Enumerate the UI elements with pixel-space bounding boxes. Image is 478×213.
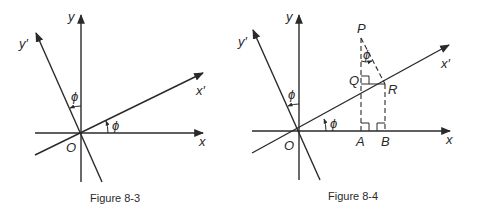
label-y: y [285, 9, 294, 24]
label-origin: O [66, 140, 76, 155]
label-x: x [445, 132, 453, 147]
x-prime-axis [252, 45, 449, 153]
caption-figure-8-4: Figure 8-4 [328, 190, 378, 202]
label-phi-left: ϕ [288, 87, 295, 102]
label-Q: Q [349, 73, 359, 88]
label-y-prime: y′ [18, 36, 29, 51]
phi-arc-bottom [324, 119, 326, 131]
right-angle-Q [361, 76, 369, 84]
right-angle-B [377, 123, 385, 131]
label-x-prime: x′ [195, 83, 206, 98]
figure-8-3: y y′ x′ x O ϕ ϕ Figure 8-3 [18, 9, 206, 204]
figure-8-4: y y′ x′ x O ϕ ϕ ϕ P Q R A B Figure 8-4 [237, 9, 453, 202]
x-prime-axis [35, 73, 203, 155]
label-B: B [381, 134, 390, 149]
label-phi-bottom: ϕ [330, 116, 337, 131]
label-P: P [357, 21, 366, 36]
label-x-prime: x′ [440, 56, 451, 71]
diagram-canvas: y y′ x′ x O ϕ ϕ Figure 8-3 y y′ x′ x O ϕ… [0, 0, 478, 213]
phi-arc-bottom [106, 121, 108, 133]
label-phi-top: ϕ [71, 89, 78, 104]
label-phi-bottom: ϕ [112, 118, 119, 133]
label-x: x [198, 134, 206, 149]
label-A: A [355, 134, 365, 149]
right-angle-A [361, 123, 369, 131]
label-R: R [388, 82, 397, 97]
label-y: y [67, 9, 76, 24]
label-y-prime: y′ [237, 34, 248, 49]
label-origin: O [284, 138, 294, 153]
phi-arc-left [288, 104, 299, 106]
y-prime-axis [253, 30, 320, 180]
caption-figure-8-3: Figure 8-3 [90, 192, 140, 204]
phi-arc-top [70, 106, 81, 108]
label-phi-p: ϕ [363, 47, 370, 62]
y-prime-axis [36, 33, 102, 182]
